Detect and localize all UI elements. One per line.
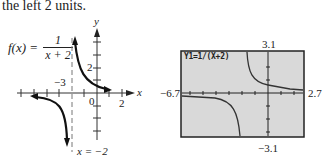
x-axis-label: x [137,86,142,98]
x-axis-arrow-icon [126,90,135,96]
calc-ymin-label: −3.1 [258,142,278,154]
y-axis-arrow-icon [94,28,100,37]
left-graph [0,0,327,162]
tick-label-x2: 2 [119,97,125,109]
calc-xmin-label: −6.7 [160,87,180,99]
asymptote-label: x = −2 [77,145,108,157]
upper-branch-arrow-icon [72,36,78,45]
tick-label-0: 0 [89,95,95,107]
lower-branch-end-arrow-icon [64,138,70,147]
tick-label-neg3: −3 [54,76,66,88]
calc-xmax-label: 2.7 [308,87,322,99]
upper-branch-end-arrow-icon [104,86,112,93]
calculator-equation: Y1=1/(X+2) [184,52,229,61]
tick-label-y2: 2 [87,61,93,73]
y-axis-label: y [94,15,99,27]
calc-ymax-label: 3.1 [262,38,276,50]
lower-branch [36,97,67,140]
